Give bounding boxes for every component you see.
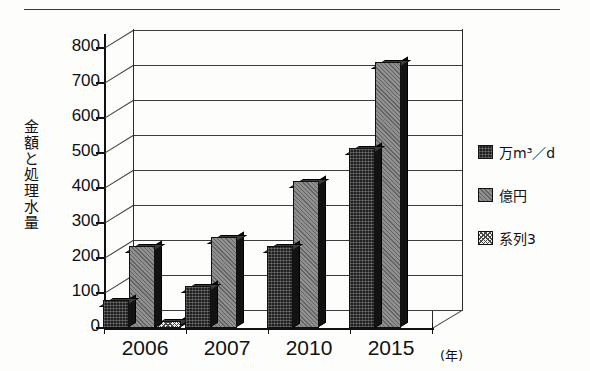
legend-swatch-icon xyxy=(478,231,493,245)
legend-label: 万m³／d xyxy=(499,142,555,162)
x-tick-mark xyxy=(432,323,433,334)
x-tick-label: 2006 xyxy=(104,336,186,360)
x-tick-label: 2015 xyxy=(350,336,432,360)
bar-2007-series1 xyxy=(185,288,209,328)
x-tick-label: 2010 xyxy=(268,336,350,360)
bar-front-face xyxy=(103,300,129,328)
horizontal-rule xyxy=(24,9,560,10)
bar-2010-series1 xyxy=(267,248,291,329)
bar-front-face xyxy=(185,286,211,328)
x-tick-label: 2007 xyxy=(186,336,268,360)
chart-legend: 万m³／d億円系列3 xyxy=(478,142,582,271)
legend-label: 系列3 xyxy=(499,228,536,248)
chart-figure: 金額と処理水量 0100200300400500600700800 200620… xyxy=(0,14,590,371)
bar-front-face xyxy=(349,148,375,329)
legend-item: 億円 xyxy=(478,185,582,205)
x-axis-unit-label: (年) xyxy=(440,345,463,364)
clipped-header-text xyxy=(56,0,536,8)
bar-2015-series1 xyxy=(349,150,373,329)
bar-2006-series1 xyxy=(103,302,127,328)
legend-swatch-icon xyxy=(478,145,493,159)
legend-label: 億円 xyxy=(499,185,527,205)
legend-swatch-icon xyxy=(478,188,493,202)
legend-item: 系列3 xyxy=(478,228,582,248)
legend-item: 万m³／d xyxy=(478,142,582,162)
bar-front-face xyxy=(267,246,293,329)
